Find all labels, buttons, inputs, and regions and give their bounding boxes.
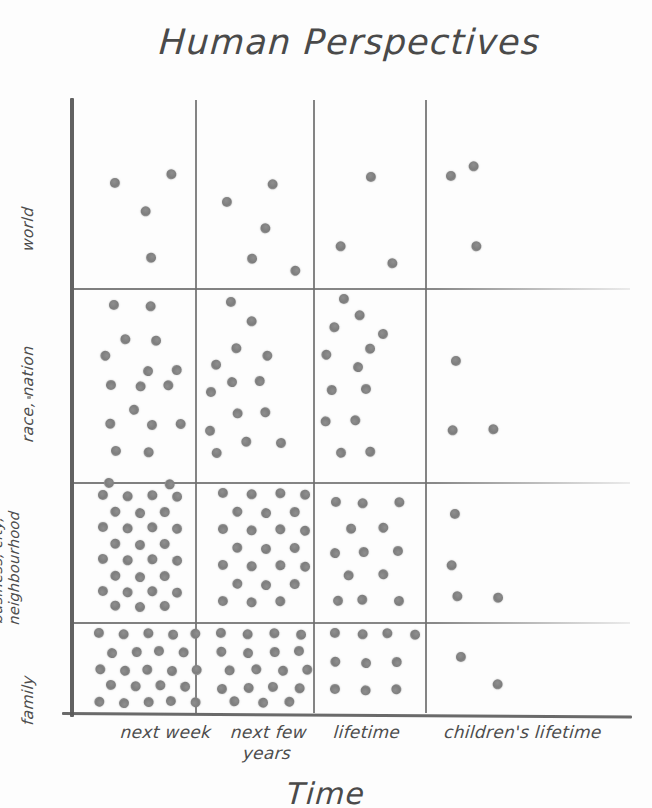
data-point — [177, 645, 191, 659]
data-point — [154, 679, 166, 691]
data-point — [141, 364, 155, 378]
data-point — [171, 365, 182, 376]
data-point — [359, 683, 373, 697]
data-point — [350, 415, 361, 426]
data-point — [171, 522, 184, 535]
data-point — [391, 544, 404, 557]
data-point — [486, 422, 500, 436]
y-tick-label: race, nation — [19, 345, 37, 443]
data-point — [410, 629, 421, 640]
data-point — [139, 205, 153, 219]
data-point — [366, 172, 376, 182]
data-point — [329, 655, 342, 668]
data-point — [158, 538, 170, 550]
data-point — [353, 309, 367, 323]
data-point — [289, 507, 300, 518]
data-point — [140, 663, 154, 677]
y-tick-label: business, city, — [0, 516, 5, 624]
data-point — [450, 589, 464, 603]
data-point — [118, 697, 130, 709]
data-point — [355, 593, 369, 607]
data-point — [231, 505, 244, 518]
data-point — [222, 197, 232, 207]
data-point — [266, 680, 280, 694]
data-point — [299, 524, 312, 537]
data-point — [393, 595, 405, 607]
x-tick-label: children's lifetime — [443, 722, 602, 742]
data-point — [245, 488, 259, 502]
data-point — [223, 663, 237, 677]
y-tick-label-line2: neighbourhood — [5, 510, 21, 625]
data-point — [283, 695, 296, 708]
data-point — [339, 294, 349, 304]
data-point — [391, 657, 402, 668]
data-point — [469, 239, 483, 253]
data-point — [94, 628, 104, 638]
data-point — [365, 343, 376, 354]
data-point — [356, 628, 370, 642]
data-point — [445, 559, 459, 573]
data-point — [145, 488, 159, 502]
data-point — [245, 315, 259, 329]
data-point — [328, 682, 341, 695]
data-point — [261, 349, 274, 362]
data-point — [289, 264, 302, 277]
data-point — [258, 221, 272, 235]
data-point — [105, 646, 119, 660]
data-point — [491, 678, 505, 692]
data-point — [334, 240, 348, 254]
data-point — [121, 521, 135, 535]
vertical-gridline-0 — [195, 100, 197, 713]
x-axis-line — [62, 712, 632, 718]
data-point — [359, 382, 372, 395]
data-point — [121, 490, 135, 504]
data-point — [225, 375, 239, 389]
data-point — [467, 160, 481, 174]
data-point — [377, 328, 389, 340]
data-point — [256, 696, 270, 710]
data-point — [134, 571, 146, 583]
data-point — [392, 495, 406, 509]
data-point — [241, 646, 255, 660]
data-point — [93, 695, 106, 708]
data-point — [230, 541, 244, 555]
data-point — [166, 665, 178, 677]
data-point — [146, 553, 158, 565]
data-point — [96, 584, 109, 597]
data-point — [109, 505, 122, 518]
x-tick-lifetime: lifetime — [306, 722, 428, 743]
data-point — [216, 683, 228, 695]
data-point — [145, 584, 159, 598]
data-point — [109, 444, 123, 458]
data-point — [251, 664, 262, 675]
horizontal-gridline-0 — [74, 288, 630, 290]
data-point — [260, 543, 272, 555]
y-tick-label: world — [19, 206, 37, 252]
data-point — [332, 594, 345, 607]
data-point — [104, 378, 117, 391]
data-point — [351, 360, 365, 374]
data-point — [131, 647, 142, 658]
data-point — [320, 348, 333, 361]
data-point — [335, 446, 348, 459]
data-point — [298, 560, 312, 574]
data-point — [216, 628, 226, 638]
data-point — [229, 341, 243, 355]
data-point — [134, 379, 148, 393]
data-point — [446, 424, 460, 438]
data-point — [326, 385, 337, 396]
y-tick-business-city-neighbourhood: business, city, neighbourhood — [0, 509, 22, 626]
data-point — [133, 600, 147, 614]
data-point — [142, 695, 156, 709]
x-tick-label-line2: years — [242, 743, 292, 763]
data-point — [216, 594, 229, 607]
data-point — [288, 577, 302, 591]
data-point — [246, 597, 257, 608]
data-point — [231, 577, 244, 590]
data-point — [226, 297, 236, 307]
data-point — [231, 406, 245, 420]
data-point — [359, 656, 373, 670]
data-point — [273, 486, 287, 500]
data-point — [133, 506, 147, 520]
y-axis-line — [70, 98, 74, 717]
